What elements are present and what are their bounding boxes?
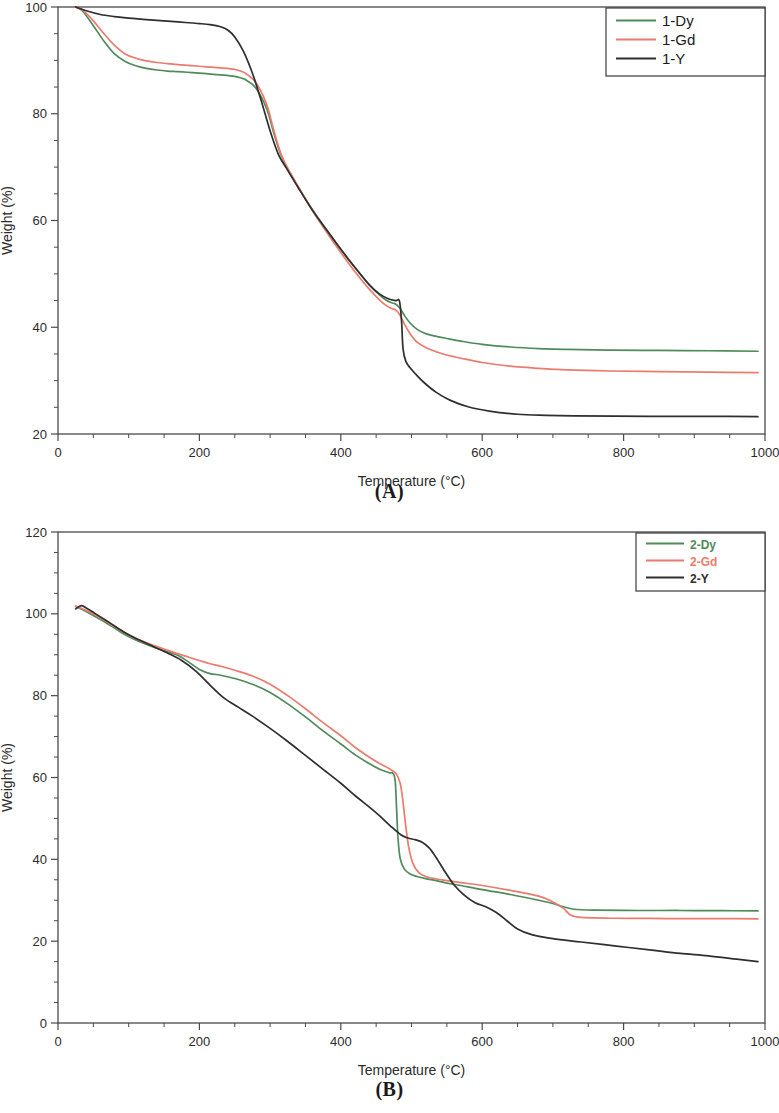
- x-tick-label: 200: [189, 1034, 211, 1049]
- y-tick-label: 80: [33, 688, 47, 703]
- x-tick-label: 1000: [751, 1034, 779, 1049]
- x-tick-label: 800: [613, 445, 635, 460]
- series-line-2-gd: [76, 606, 758, 919]
- plot-frame: [58, 532, 765, 1023]
- y-tick-label: 120: [25, 525, 47, 540]
- y-tick-label: 20: [33, 934, 47, 949]
- y-tick-label: 0: [40, 1016, 47, 1031]
- y-tick-label: 40: [33, 320, 47, 335]
- x-tick-label: 0: [54, 1034, 61, 1049]
- y-tick-label: 80: [33, 106, 47, 121]
- panel-b-caption: (B): [0, 1078, 779, 1101]
- x-tick-label: 400: [330, 445, 352, 460]
- x-tick-label: 800: [613, 1034, 635, 1049]
- tga-chart-b: 02040608010012002004006008001000Temperat…: [0, 515, 779, 1113]
- series-line-2-dy: [76, 606, 758, 910]
- x-tick-label: 0: [54, 445, 61, 460]
- tga-figure: 2040608010002004006008001000Temperature …: [0, 0, 779, 1113]
- legend-label-1-dy: 1-Dy: [662, 12, 694, 29]
- x-axis-title: Temperature (°C): [358, 1062, 466, 1078]
- x-tick-label: 1000: [751, 445, 779, 460]
- y-axis-title: Weight (%): [0, 186, 15, 255]
- y-axis-title: Weight (%): [0, 743, 15, 812]
- legend-label-2-y: 2-Y: [690, 572, 709, 586]
- legend-label-2-dy: 2-Dy: [690, 538, 716, 552]
- x-tick-label: 600: [471, 1034, 493, 1049]
- y-tick-label: 40: [33, 852, 47, 867]
- y-tick-label: 20: [33, 427, 47, 442]
- panel-a-caption: (A): [0, 480, 779, 503]
- y-tick-label: 100: [25, 606, 47, 621]
- tga-chart-a: 2040608010002004006008001000Temperature …: [0, 0, 779, 515]
- y-tick-label: 60: [33, 770, 47, 785]
- y-tick-label: 60: [33, 213, 47, 228]
- y-tick-label: 100: [25, 0, 47, 15]
- legend-label-2-gd: 2-Gd: [690, 555, 717, 569]
- x-tick-label: 200: [189, 445, 211, 460]
- x-tick-label: 600: [471, 445, 493, 460]
- x-tick-label: 400: [330, 1034, 352, 1049]
- chart-panel-a: 2040608010002004006008001000Temperature …: [0, 0, 779, 515]
- legend-label-1-gd: 1-Gd: [662, 31, 695, 48]
- legend-label-1-y: 1-Y: [662, 50, 685, 67]
- chart-panel-b: 02040608010012002004006008001000Temperat…: [0, 515, 779, 1113]
- series-line-2-y: [76, 606, 758, 962]
